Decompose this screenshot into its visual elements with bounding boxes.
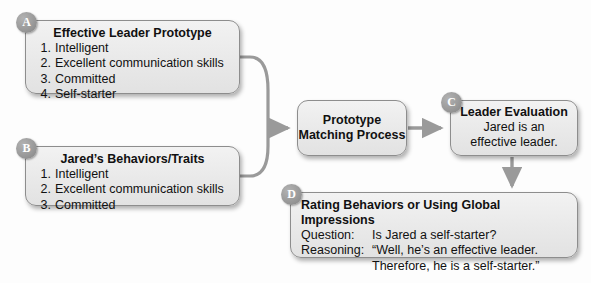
node-process-line1: Prototype (323, 113, 381, 127)
diagram-canvas: A Effective Leader Prototype 1.Intellige… (0, 0, 591, 283)
node-c-title: Leader Evaluation (457, 105, 571, 120)
qa-value: Is Jared a self-starter? (372, 228, 569, 243)
list-item-number: 4. (34, 87, 51, 102)
list-item-number: 1. (34, 41, 51, 56)
list-item-label: Excellent communication skills (55, 56, 224, 70)
list-item-number: 3. (34, 198, 51, 213)
node-badge-c: C (441, 92, 462, 113)
list-item: 1.Intelligent (34, 167, 231, 182)
qa-value: “Well, he’s an effective leader. (372, 243, 569, 258)
list-item-number: 1. (34, 167, 51, 182)
qa-value: Therefore, he is a self-starter.” (372, 259, 569, 274)
list-item: 1.Intelligent (34, 41, 231, 56)
list-item: 2.Excellent communication skills (34, 182, 231, 197)
list-item: 2.Excellent communication skills (34, 56, 231, 71)
list-item-label: Self-starter (55, 87, 116, 101)
list-item-label: Committed (55, 72, 115, 86)
node-process-title: Prototype Matching Process (299, 113, 406, 144)
node-b-list: 1.Intelligent 2.Excellent communication … (34, 167, 231, 213)
node-c-line2: effective leader. (470, 135, 557, 149)
node-b-title: Jared’s Behaviors/Traits (34, 152, 231, 167)
list-item: 3.Committed (34, 72, 231, 87)
qa-row-reasoning: Reasoning: “Well, he’s an effective lead… (299, 243, 569, 258)
qa-row-reasoning-continued: Reasoning: Therefore, he is a self-start… (299, 259, 569, 274)
node-d-title: Rating Behaviors or Using Global Impress… (299, 198, 569, 228)
node-d-qa-block: Question: Is Jared a self-starter? Reaso… (299, 228, 569, 274)
qa-label: Question: (299, 228, 372, 243)
node-process-line2: Matching Process (299, 128, 406, 142)
qa-row-question: Question: Is Jared a self-starter? (299, 228, 569, 243)
node-c-body: Jared is an effective leader. (457, 120, 571, 150)
connector-a-to-merge (240, 57, 268, 128)
list-item: 3.Committed (34, 198, 231, 213)
qa-label: Reasoning: (299, 243, 372, 258)
connector-b-to-merge (240, 128, 268, 176)
list-item-number: 2. (34, 182, 51, 197)
list-item-number: 3. (34, 72, 51, 87)
node-leader-evaluation[interactable]: Leader Evaluation Jared is an effective … (450, 100, 578, 156)
node-badge-d: D (281, 184, 302, 205)
node-jareds-behaviors-traits[interactable]: Jared’s Behaviors/Traits 1.Intelligent 2… (25, 146, 240, 206)
node-c-line1: Jared is an (483, 120, 544, 134)
node-rating-behaviors-global-impressions[interactable]: Rating Behaviors or Using Global Impress… (290, 192, 578, 258)
node-badge-b: B (16, 138, 37, 159)
list-item-number: 2. (34, 56, 51, 71)
list-item: 4.Self-starter (34, 87, 231, 102)
node-badge-a: A (16, 12, 37, 33)
list-item-label: Intelligent (55, 167, 109, 181)
list-item-label: Intelligent (55, 41, 109, 55)
node-prototype-matching-process[interactable]: Prototype Matching Process (297, 100, 407, 156)
node-a-title: Effective Leader Prototype (34, 26, 231, 41)
list-item-label: Committed (55, 198, 115, 212)
node-a-list: 1.Intelligent 2.Excellent communication … (34, 41, 231, 103)
list-item-label: Excellent communication skills (55, 182, 224, 196)
node-effective-leader-prototype[interactable]: Effective Leader Prototype 1.Intelligent… (25, 20, 240, 94)
